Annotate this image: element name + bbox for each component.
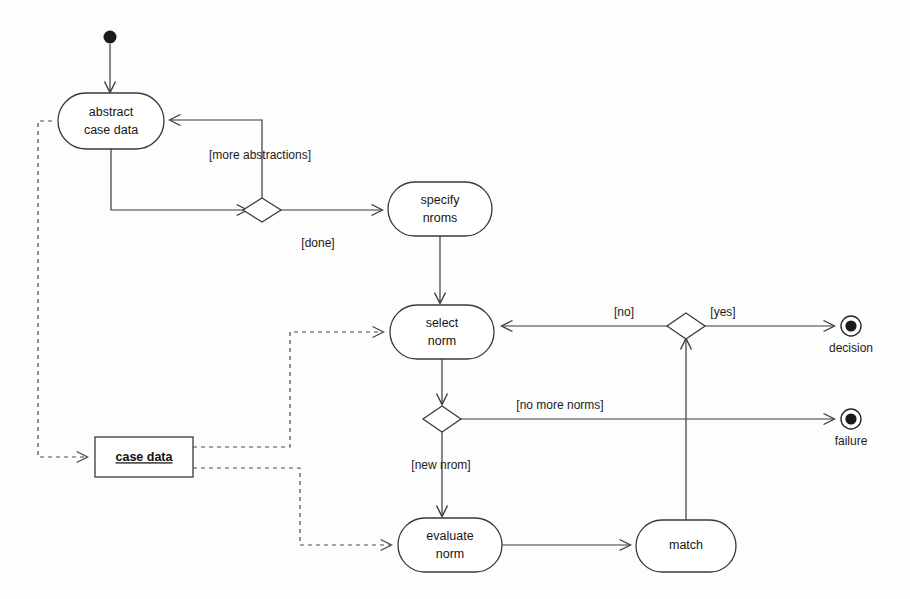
activity-evaluate-norm[interactable]: evaluate norm <box>398 518 502 572</box>
dependency-case-data-to-evaluate <box>193 468 391 545</box>
activity-select-norm[interactable]: select norm <box>390 305 494 359</box>
end-state-label: decision <box>829 341 873 355</box>
initial-node <box>104 31 117 44</box>
diagram-canvas: abstract case data [more abstractions] [… <box>0 0 910 599</box>
decision-diamond-norms[interactable] <box>423 406 461 432</box>
activity-label-line2: norm <box>436 547 464 561</box>
guard-new-nrom: [new nrom] <box>411 458 470 472</box>
uml-activity-diagram: abstract case data [more abstractions] [… <box>0 0 910 599</box>
object-node-case-data[interactable]: case data <box>95 437 193 477</box>
activity-match[interactable]: match <box>636 520 736 572</box>
merge-diamond-abstractions[interactable] <box>243 198 281 222</box>
activity-specify-nroms[interactable]: specify nroms <box>388 182 492 236</box>
activity-label-line1: match <box>669 538 703 552</box>
guard-more-abstractions: [more abstractions] <box>209 148 311 162</box>
activity-label-line1: specify <box>421 193 461 207</box>
end-state-label: failure <box>835 434 868 448</box>
activity-label-line1: select <box>426 316 459 330</box>
activity-abstract-case-data[interactable]: abstract case data <box>58 93 164 149</box>
dependency-abstract-to-case-data <box>38 121 87 457</box>
guard-yes: [yes] <box>710 305 735 319</box>
end-state-decision: decision <box>829 316 873 355</box>
decision-diamond-yes-no[interactable] <box>667 313 705 339</box>
guard-no: [no] <box>614 305 634 319</box>
guard-done: [done] <box>301 236 334 250</box>
end-state-failure: failure <box>835 409 868 448</box>
activity-label-line2: nroms <box>423 211 458 225</box>
activity-label-line1: abstract <box>89 105 134 119</box>
dependency-case-data-to-select <box>193 332 383 447</box>
activity-label-line1: evaluate <box>426 529 473 543</box>
guard-no-more-norms: [no more norms] <box>516 398 603 412</box>
activity-label-line2: case data <box>84 123 138 137</box>
activity-label-line2: norm <box>428 334 456 348</box>
object-node-label: case data <box>116 450 174 464</box>
